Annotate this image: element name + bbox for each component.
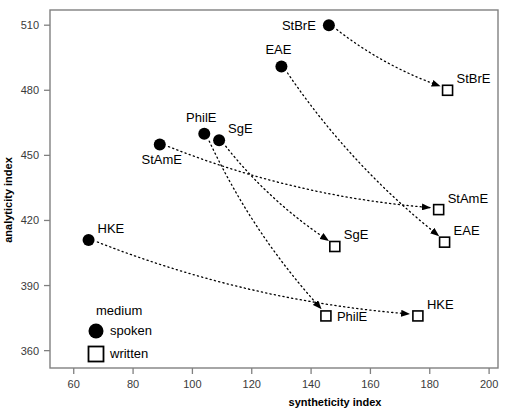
x-tick-label: 80 xyxy=(127,378,139,390)
data-point-spoken-sge xyxy=(213,134,225,146)
point-label-written-sge: SgE xyxy=(344,227,369,242)
point-label-written-eae: EAE xyxy=(454,223,480,238)
x-tick-label: 120 xyxy=(243,378,261,390)
x-tick-label: 180 xyxy=(421,378,439,390)
data-point-spoken-stbre xyxy=(323,19,335,31)
x-axis-title: syntheticity index xyxy=(289,396,383,408)
y-tick-label: 420 xyxy=(21,214,39,226)
data-point-written-hke xyxy=(413,311,423,321)
x-tick-label: 100 xyxy=(183,378,201,390)
data-point-written-stame xyxy=(434,205,444,215)
data-point-written-stbre xyxy=(443,85,453,95)
point-label-written-stbre: StBrE xyxy=(457,71,491,86)
y-tick-label: 390 xyxy=(21,280,39,292)
y-tick-label: 510 xyxy=(21,19,39,31)
chart-canvas: 6080100120140160180200 36039042045048051… xyxy=(0,0,513,418)
y-tick-label: 360 xyxy=(21,345,39,357)
data-point-spoken-phile xyxy=(198,128,210,140)
data-point-written-eae xyxy=(440,237,450,247)
data-point-spoken-eae xyxy=(275,60,287,72)
point-label-spoken-phile: PhilE xyxy=(186,110,217,125)
point-label-written-phile: PhilE xyxy=(337,309,368,324)
x-tick-label: 60 xyxy=(68,378,80,390)
y-tick-label: 480 xyxy=(21,84,39,96)
legend-label-spoken: spoken xyxy=(110,323,152,338)
data-point-spoken-stame xyxy=(154,139,166,151)
legend-marker-written xyxy=(89,347,104,362)
point-label-spoken-sge: SgE xyxy=(228,121,253,136)
point-label-written-stame: StAmE xyxy=(448,191,489,206)
x-tick-label: 200 xyxy=(480,378,498,390)
y-tick-label: 450 xyxy=(21,149,39,161)
point-label-spoken-eae: EAE xyxy=(265,42,291,57)
data-point-spoken-hke xyxy=(83,234,95,246)
x-tick-label: 140 xyxy=(302,378,320,390)
scatter-plot: 6080100120140160180200 36039042045048051… xyxy=(0,0,513,418)
point-label-spoken-stbre: StBrE xyxy=(282,18,316,33)
legend-title: medium xyxy=(96,303,142,318)
point-label-spoken-stame: StAmE xyxy=(142,152,183,167)
legend-marker-spoken xyxy=(89,324,104,339)
legend-label-written: written xyxy=(109,346,148,361)
data-point-written-sge xyxy=(330,241,340,251)
data-point-written-phile xyxy=(321,311,331,321)
point-label-spoken-hke: HKE xyxy=(98,221,125,236)
x-tick-label: 160 xyxy=(361,378,379,390)
y-axis-title: analyticity index xyxy=(2,156,14,242)
point-label-written-hke: HKE xyxy=(427,297,454,312)
